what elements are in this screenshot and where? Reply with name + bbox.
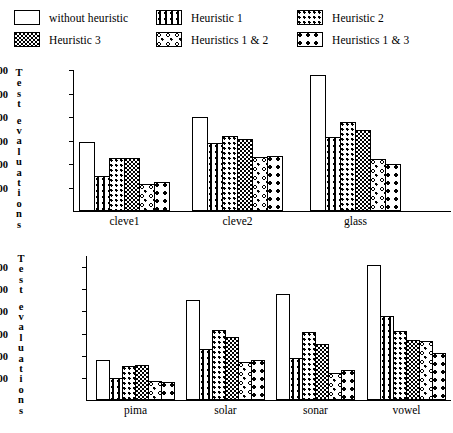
legend-swatch-h13 [297,32,323,47]
legend-label: Heuristics 1 & 2 [191,34,268,46]
bar-group-vowel: vowel [367,256,446,400]
bar-group-solar: solar [186,256,265,400]
legend-label: Heuristic 1 [191,12,243,24]
legend-item-plain: without heuristic [14,10,128,25]
x-tick-label-glass: glass [310,215,401,227]
bar-vowel-h3 [406,340,420,400]
bar-glass-plain [310,75,326,211]
bar-sonar-h3 [315,344,329,400]
chart-bottom: Test evaluations 10000200003000040000500… [0,248,453,433]
y-tick-label: 30000 [0,328,8,339]
bar-cleve1-h1 [94,176,110,211]
x-tick-label-solar: solar [186,404,265,416]
y-axis-ticks-bottom: 100002000030000400005000060000 [0,248,86,433]
bar-group-glass: glass [310,70,401,211]
bar-pima-h12 [148,381,162,400]
bar-sonar-h13 [341,370,355,400]
bar-vowel-h1 [380,316,394,400]
bar-cleve1-h13 [154,182,170,211]
bar-group-cleve2: cleve2 [192,70,283,211]
legend-item-h12: Heuristics 1 & 2 [156,32,268,47]
plot-area-top: cleve1cleve2glass [73,70,451,211]
bar-pima-plain [96,360,110,400]
bar-glass-h1 [325,137,341,211]
bar-solar-h1 [199,349,213,400]
bar-cleve1-h3 [124,158,140,211]
y-tick-label: 6000 [0,65,8,76]
bar-cleve1-plain [79,142,95,211]
y-tick-label: 10000 [0,372,8,383]
bar-cleve2-h1 [207,143,223,211]
bar-sonar-plain [276,294,290,400]
bar-cleve2-plain [192,117,208,211]
legend-label: Heuristic 2 [332,12,384,24]
bar-sonar-h1 [289,358,303,400]
bar-cleve2-h2 [222,136,238,211]
y-tick-label: 2000 [0,159,8,170]
bar-cleve2-h3 [237,139,253,211]
chart-top: Test evaluations 10002000300040005000600… [0,56,453,248]
bar-pima-h13 [161,382,175,400]
legend-swatch-h2 [297,10,323,25]
legend-item-h2: Heuristic 2 [297,10,384,25]
bar-vowel-plain [367,265,381,400]
bar-glass-h12 [370,159,386,211]
bar-cleve1-h2 [109,158,125,211]
x-tick-label-cleve1: cleve1 [79,215,170,227]
legend-swatch-plain [14,10,40,25]
bar-pima-h3 [135,365,149,400]
legend-swatch-h12 [156,32,182,47]
bar-vowel-h13 [432,353,446,400]
bar-solar-h12 [238,362,252,400]
bar-sonar-h2 [302,332,316,400]
bar-glass-h2 [340,122,356,211]
legend-label: Heuristics 1 & 3 [332,34,409,46]
bar-solar-plain [186,300,200,400]
bar-cleve2-h13 [267,156,283,211]
legend-item-h13: Heuristics 1 & 3 [297,32,409,47]
x-tick-label-vowel: vowel [367,404,446,416]
bar-vowel-h12 [419,341,433,400]
bar-group-pima: pima [96,256,175,400]
bar-glass-h3 [355,130,371,211]
bar-cleve1-h12 [139,184,155,211]
bar-group-cleve1: cleve1 [79,70,170,211]
y-tick-label: 40000 [0,306,8,317]
y-tick-label: 50000 [0,284,8,295]
legend-swatch-h1 [156,10,182,25]
y-tick-label: 1000 [0,182,8,193]
legend-label: Heuristic 3 [49,34,101,46]
x-tick-label-sonar: sonar [276,404,355,416]
y-tick-label: 3000 [0,135,8,146]
bar-solar-h2 [212,330,226,400]
plot-area-bottom: pimasolarsonarvowel [86,256,451,400]
bar-sonar-h12 [328,373,342,400]
bar-pima-h2 [122,366,136,400]
bar-cleve2-h12 [252,157,268,211]
x-tick-label-cleve2: cleve2 [192,215,283,227]
legend: without heuristicHeuristic 1Heuristic 2H… [0,0,453,56]
legend-item-h1: Heuristic 1 [156,10,243,25]
bar-group-sonar: sonar [276,256,355,400]
x-axis-line-top [73,211,451,212]
legend-item-h3: Heuristic 3 [14,32,101,47]
x-tick-label-pima: pima [96,404,175,416]
bar-solar-h3 [225,337,239,400]
y-tick-label: 4000 [0,112,8,123]
bar-solar-h13 [251,360,265,400]
y-tick-label: 60000 [0,262,8,273]
bar-vowel-h2 [393,331,407,400]
y-tick-label: 5000 [0,88,8,99]
legend-swatch-h3 [14,32,40,47]
y-axis-ticks-top: 100020003000400050006000 [0,56,73,248]
bar-pima-h1 [109,378,123,400]
legend-label: without heuristic [49,12,128,24]
y-tick-label: 20000 [0,350,8,361]
x-axis-line-bottom [86,400,451,401]
bar-glass-h13 [385,164,401,211]
